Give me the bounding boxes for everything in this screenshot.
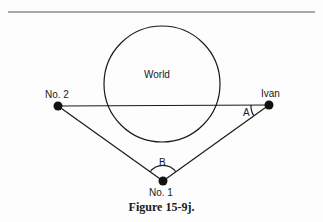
label-world: World — [144, 69, 170, 80]
point-no2 — [54, 102, 63, 111]
angle-a-arc — [251, 105, 254, 116]
diagram-page: World No. 2 Ivan No. 1 A B Figure 15-9j. — [0, 0, 323, 222]
label-angle-b: B — [159, 157, 166, 168]
line-ivan-no1 — [163, 105, 269, 181]
label-ivan: Ivan — [261, 88, 280, 99]
diagram-canvas: World No. 2 Ivan No. 1 A B — [0, 0, 323, 222]
figure-caption: Figure 15-9j. — [0, 200, 323, 215]
point-ivan — [265, 101, 274, 110]
point-no1 — [159, 177, 168, 186]
world-circle — [104, 26, 220, 142]
line-no2-no1 — [58, 106, 163, 181]
label-no2: No. 2 — [45, 89, 69, 100]
label-angle-a: A — [243, 107, 250, 118]
line-no2-ivan — [58, 105, 269, 106]
label-no1: No. 1 — [149, 187, 173, 198]
